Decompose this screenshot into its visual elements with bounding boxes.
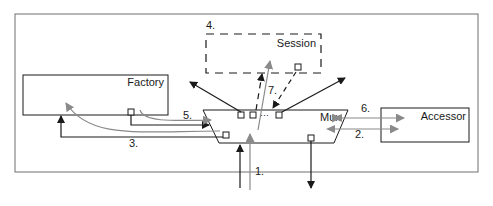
architecture-diagram: Session 4. Factory Mux ··· Accessor 7. 5… bbox=[0, 0, 493, 206]
mux-node: Mux ··· bbox=[203, 110, 348, 143]
arrow-3-mux-to-factory bbox=[61, 116, 223, 137]
mux-port-left bbox=[223, 132, 229, 138]
factory-port bbox=[128, 109, 134, 115]
session-port bbox=[295, 64, 301, 70]
accessor-label: Accessor bbox=[421, 110, 467, 122]
session-step-label: 4. bbox=[206, 19, 215, 31]
session-node: Session 4. bbox=[206, 19, 321, 73]
session-label: Session bbox=[277, 37, 316, 49]
edge-label-5: 5. bbox=[183, 109, 192, 121]
arrowhead-2-left bbox=[326, 125, 335, 133]
arrow-mux-to-session-dashed bbox=[256, 74, 262, 110]
edge-label-2: 2. bbox=[355, 128, 364, 140]
accessor-node: Accessor bbox=[381, 108, 469, 142]
edge-label-7: 7. bbox=[268, 84, 277, 96]
arrow-gray-mux-to-factory bbox=[66, 103, 220, 132]
factory-label: Factory bbox=[127, 76, 164, 88]
factory-node: Factory bbox=[23, 75, 168, 115]
edge-label-6: 6. bbox=[361, 102, 370, 114]
arrow-mux-port1-to-upper-left bbox=[190, 82, 241, 112]
edge-label-1: 1. bbox=[255, 165, 264, 177]
mux-port-2 bbox=[250, 112, 256, 118]
mux-port-3 bbox=[276, 112, 282, 118]
mux-port-bottom bbox=[308, 135, 314, 141]
edge-label-3: 3. bbox=[129, 137, 138, 149]
mux-port-1 bbox=[238, 112, 244, 118]
diagram-frame bbox=[15, 14, 478, 172]
arrow-mux-port3-to-upper-right bbox=[282, 78, 345, 112]
